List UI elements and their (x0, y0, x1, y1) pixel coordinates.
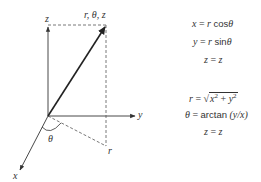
eq-x-fn: cos (214, 18, 229, 29)
z-axis-label: z (45, 14, 49, 24)
eq-sign: = (200, 36, 206, 47)
theta-arc (42, 123, 61, 131)
eq-theta-fn: arctan (201, 109, 227, 120)
point-label: r, θ, z (84, 10, 106, 20)
eq-sign: = (195, 93, 201, 104)
x-axis-label: x (13, 171, 17, 181)
eq-y-fn: sin (215, 36, 227, 47)
eq-r-lhs: r (189, 93, 193, 104)
x-axis (20, 116, 48, 170)
dashed-r-projection (48, 116, 106, 146)
equation-z-2: z = z (204, 127, 222, 137)
eq-theta-lhs: θ (185, 109, 190, 120)
equation-r: r = √x2 + y2 (189, 92, 238, 104)
eq-y-arg: θ (227, 36, 232, 47)
y-axis-label: y (138, 110, 142, 120)
eq-x-lhs: x (192, 18, 196, 29)
eq-z-lhs: z (204, 54, 208, 65)
eq-sign: = (210, 126, 216, 137)
sqrt-expression: √x2 + y2 (204, 93, 238, 104)
theta-label: θ (48, 134, 53, 144)
eq-x-arg: θ (228, 18, 233, 29)
equation-theta: θ = arctan (y/x) (185, 110, 248, 120)
eq-sign: = (192, 109, 198, 120)
eq-z-rhs: z (219, 54, 223, 65)
equation-y: y = r sinθ (193, 37, 232, 47)
r-projection-label: r (108, 146, 112, 156)
eq-sign: = (210, 54, 216, 65)
eq-y-r: r (208, 36, 212, 47)
eq-x-r: r (207, 18, 211, 29)
position-vector (48, 27, 105, 116)
eq-z2-lhs: z (204, 126, 208, 137)
eq-theta-arg: (y/x) (229, 109, 247, 120)
equation-z-1: z = z (204, 55, 222, 65)
equation-x: x = r cosθ (192, 19, 233, 29)
eq-y-lhs: y (193, 36, 197, 47)
eq-z2-rhs: z (219, 126, 223, 137)
eq-sign: = (199, 18, 205, 29)
